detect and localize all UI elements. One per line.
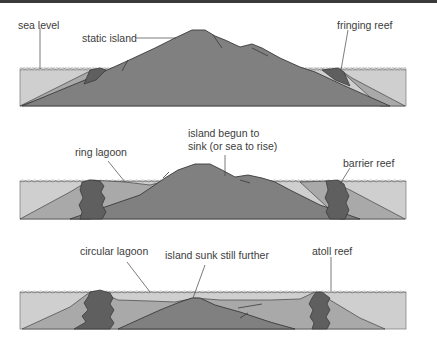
- label-static-island: static island: [82, 32, 137, 44]
- sea-surface: [20, 291, 406, 294]
- label-island-sinking-2: sink (or sea to rise): [188, 140, 277, 152]
- atoll-formation-diagram: sea level static island fringing reef ri…: [0, 0, 437, 340]
- label-sea-level: sea level: [18, 19, 59, 31]
- barrier-reef-left: [79, 180, 106, 219]
- label-fringing-reef: fringing reef: [337, 19, 393, 31]
- label-atoll-reef: atoll reef: [312, 245, 352, 257]
- label-island-sunk: island sunk still further: [165, 249, 269, 261]
- label-ring-lagoon: ring lagoon: [75, 146, 127, 158]
- label-circular-lagoon: circular lagoon: [80, 245, 148, 257]
- label-barrier-reef: barrier reef: [343, 157, 394, 169]
- panel-island-sinking: ring lagoon island begun to sink (or sea…: [20, 127, 406, 219]
- panel-atoll: circular lagoon island sunk still furthe…: [20, 245, 406, 329]
- label-island-sinking-1: island begun to: [188, 127, 259, 139]
- panel-static-island: sea level static island fringing reef: [18, 19, 406, 106]
